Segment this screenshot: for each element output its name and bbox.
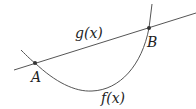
point-b-marker	[147, 26, 151, 30]
secant-line-g	[14, 13, 196, 70]
point-a-label: A	[29, 69, 41, 85]
line-label-g: g(x)	[75, 25, 103, 41]
point-a-marker	[33, 61, 37, 65]
curve-label-f: f(x)	[100, 90, 125, 106]
point-b-label: B	[146, 34, 157, 50]
diagram-canvas: g(x) B A f(x)	[0, 0, 196, 109]
